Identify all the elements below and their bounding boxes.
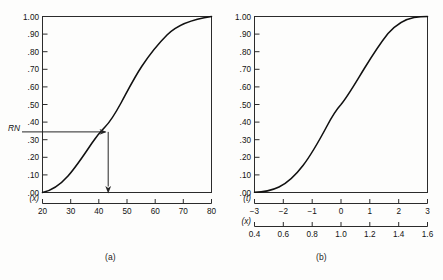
y-tick-label: .80 bbox=[28, 48, 40, 57]
x-tick-label: −1 bbox=[308, 207, 318, 216]
y-tick-label: .40 bbox=[28, 118, 40, 127]
x-tick-label: 30 bbox=[66, 207, 76, 216]
y-tick-labels-b: 1.00 .90 .80 .70 .60 .50 .40 .30 .20 .10… bbox=[235, 13, 251, 198]
x-tick-label: 0.4 bbox=[249, 230, 261, 239]
x-axis-name-a: (x) bbox=[29, 194, 39, 203]
y-tick-label: .60 bbox=[28, 83, 40, 92]
x-tick-label: 2 bbox=[396, 207, 401, 216]
caption-a: (a) bbox=[105, 252, 116, 262]
x-tick-label: 1.6 bbox=[422, 230, 434, 239]
x-tick-label: 60 bbox=[151, 207, 161, 216]
panel-b: 1.00 .90 .80 .70 .60 .50 .40 .30 .20 .10… bbox=[214, 0, 443, 280]
y-tick-label: .30 bbox=[28, 136, 40, 145]
y-tick-label: 1.00 bbox=[23, 13, 39, 22]
rn-annotation-a: RN bbox=[8, 123, 111, 194]
x-tick-label: 70 bbox=[179, 207, 189, 216]
y-tick-label: .20 bbox=[28, 153, 40, 162]
x-tick-label: 0.6 bbox=[278, 230, 290, 239]
x-axis-name-x-b: (x) bbox=[241, 217, 251, 226]
x-tick-label: 1.2 bbox=[364, 230, 376, 239]
y-tick-label: .90 bbox=[28, 30, 40, 39]
x-tick-label: 0.8 bbox=[307, 230, 319, 239]
y-tick-label: .70 bbox=[240, 65, 252, 74]
x-tick-label: 0 bbox=[339, 207, 344, 216]
y-tick-label: .20 bbox=[240, 153, 252, 162]
y-tick-label: .60 bbox=[240, 83, 252, 92]
x-tick-label: −2 bbox=[279, 207, 289, 216]
y-tick-label: .40 bbox=[240, 118, 252, 127]
x-tick-label: −3 bbox=[250, 207, 260, 216]
y-ticks-b bbox=[255, 17, 260, 193]
plot-frame-a bbox=[43, 17, 212, 193]
x-tick-labels-t-b: −3 −2 −1 0 1 2 3 bbox=[250, 207, 430, 216]
x-tick-labels-a: 20 30 40 50 60 70 80 bbox=[38, 207, 217, 216]
y-tick-label: .80 bbox=[240, 48, 252, 57]
y-tick-label: .70 bbox=[28, 65, 40, 74]
y-tick-label: .10 bbox=[240, 171, 252, 180]
y-tick-label: .90 bbox=[240, 30, 252, 39]
x-tick-label: 50 bbox=[122, 207, 132, 216]
x-tick-label: 3 bbox=[425, 207, 430, 216]
y-tick-label: 1.00 bbox=[235, 13, 251, 22]
panel-a-plot: 1.00 .90 .80 .70 .60 .50 .40 .30 .20 .10… bbox=[0, 0, 222, 280]
x-axis-a bbox=[43, 199, 212, 204]
curve-a bbox=[43, 17, 212, 193]
y-tick-label: .50 bbox=[240, 101, 252, 110]
figure-container: 1.00 .90 .80 .70 .60 .50 .40 .30 .20 .10… bbox=[0, 0, 443, 280]
y-tick-label: .30 bbox=[240, 136, 252, 145]
y-ticks-a bbox=[43, 17, 48, 193]
curve-b bbox=[255, 17, 428, 193]
x-tick-labels-x-b: 0.4 0.6 0.8 1.0 1.2 1.4 1.6 bbox=[249, 230, 434, 239]
y-tick-labels-a: 1.00 .90 .80 .70 .60 .50 .40 .30 .20 .10… bbox=[23, 13, 39, 198]
panel-a: 1.00 .90 .80 .70 .60 .50 .40 .30 .20 .10… bbox=[0, 0, 222, 280]
caption-b: (b) bbox=[316, 252, 327, 262]
x-tick-label: 1.4 bbox=[393, 230, 405, 239]
y-tick-label: .50 bbox=[28, 101, 40, 110]
rn-label: RN bbox=[8, 123, 21, 133]
panel-b-plot: 1.00 .90 .80 .70 .60 .50 .40 .30 .20 .10… bbox=[214, 0, 443, 280]
x-axis-t-b bbox=[255, 199, 428, 204]
x-axis-name-t-b: (t) bbox=[243, 194, 251, 203]
x-tick-label: 20 bbox=[38, 207, 48, 216]
x-tick-label: 40 bbox=[94, 207, 104, 216]
x-tick-label: 1.0 bbox=[335, 230, 347, 239]
x-axis-x-b bbox=[255, 222, 428, 227]
x-tick-label: 1 bbox=[368, 207, 373, 216]
y-tick-label: .10 bbox=[28, 171, 40, 180]
